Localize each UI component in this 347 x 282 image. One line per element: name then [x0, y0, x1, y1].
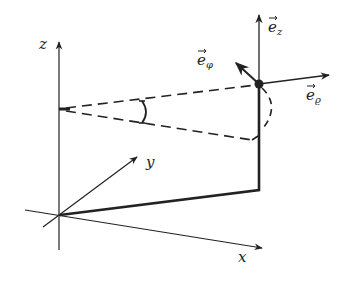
position-path — [60, 84, 259, 215]
z-axis-label: z — [38, 35, 47, 53]
dashed-projection-lines — [66, 85, 258, 140]
angle-arc — [142, 101, 146, 123]
svg-text:φ: φ — [206, 59, 213, 70]
svg-text:z: z — [276, 26, 283, 37]
svg-text:e: e — [197, 51, 206, 69]
y-axis — [43, 157, 137, 227]
e-phi-vector — [236, 63, 259, 84]
e-rho-vector — [259, 75, 329, 84]
e-phi-label: e φ — [197, 49, 213, 70]
e-z-label: e z — [268, 16, 283, 37]
e-rho-label: e ϱ — [306, 84, 321, 105]
rotation-arc — [262, 88, 272, 127]
point-dot — [255, 80, 264, 89]
y-axis-label: y — [145, 153, 155, 171]
svg-text:ϱ: ϱ — [315, 94, 321, 105]
svg-text:e: e — [268, 18, 277, 36]
cylindrical-coordinates-diagram: z y x e z e φ e ϱ — [0, 0, 347, 282]
x-axis-label: x — [238, 248, 247, 266]
svg-text:e: e — [306, 86, 315, 104]
